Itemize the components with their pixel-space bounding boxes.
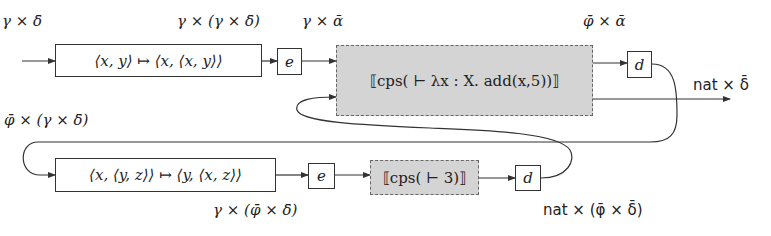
wires [0,0,771,236]
label-top-input: γ × δ̄ [2,14,42,29]
label-top-output-2-text: nat × δ̄ [693,76,749,94]
label-bottom-input: φ̄ × (γ × δ̄) [4,113,88,128]
d-box-bottom: d [515,165,541,191]
e-box-bottom: e [308,163,335,189]
cps-box-bottom: ⟦cps( ⊢ 3)⟧ [370,160,479,195]
label-top-output-2: nat × δ̄ [693,78,749,93]
swap-box-bottom: ⟨x, ⟨y, z⟩⟩ ↦ ⟨y, ⟨x, z⟩⟩ [55,158,276,192]
label-top-output-1: φ̄ × ᾱ [583,14,626,29]
label-bottom-after-swap: γ × (φ̄ × δ̄) [213,203,297,218]
label-top-after-e: γ × ᾱ [302,14,343,29]
label-bottom-output: nat × (φ̄ × δ̄) [543,203,643,218]
d-box-top: d [627,51,652,78]
swap-box-top: ⟨x, y⟩ ↦ ⟨x, ⟨x, y⟩⟩ [55,44,262,77]
label-bottom-output-text: nat × (φ̄ × δ̄) [543,201,643,219]
label-top-after-swap: γ × (γ × δ̄) [177,14,260,29]
e-box-top: e [277,48,302,75]
cps-box-top: ⟦cps( ⊢ λx : X. add(x,5))⟧ [336,45,593,116]
